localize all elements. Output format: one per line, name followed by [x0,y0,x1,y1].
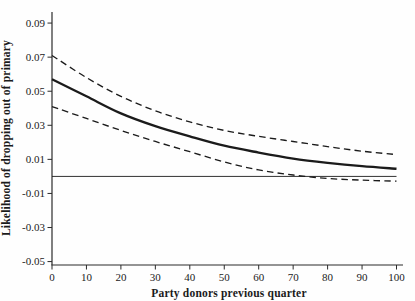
y-tick-label: 0.07 [26,51,46,63]
x-tick-label: 10 [81,271,93,283]
x-tick-label: 0 [49,271,55,283]
x-tick-label: 100 [388,271,405,283]
axes: 0.090.070.050.030.01-0.01-0.03-0.0501020… [22,12,405,283]
x-axis-title: Party donors previous quarter [151,287,306,300]
y-tick-label: -0.05 [22,255,45,267]
x-tick-label: 60 [253,271,265,283]
chart-canvas: Likelihood of dropping out of primary Pa… [0,0,415,301]
y-tick-label: 0.09 [26,17,46,29]
y-tick-label: 0.05 [26,85,46,97]
figure: Likelihood of dropping out of primary Pa… [0,0,415,301]
x-tick-label: 20 [115,271,127,283]
y-tick-label: -0.03 [22,221,45,233]
x-tick-label: 70 [288,271,300,283]
series-lower-ci-line [52,107,397,182]
plot-area [52,55,397,181]
x-tick-label: 90 [357,271,369,283]
x-tick-label: 30 [150,271,162,283]
y-tick-label: -0.01 [22,187,45,199]
y-axis-title: Likelihood of dropping out of primary [0,40,13,236]
x-tick-label: 50 [219,271,231,283]
x-tick-label: 80 [322,271,334,283]
x-tick-label: 40 [184,271,196,283]
y-tick-label: 0.01 [26,153,45,165]
y-tick-label: 0.03 [26,119,46,131]
